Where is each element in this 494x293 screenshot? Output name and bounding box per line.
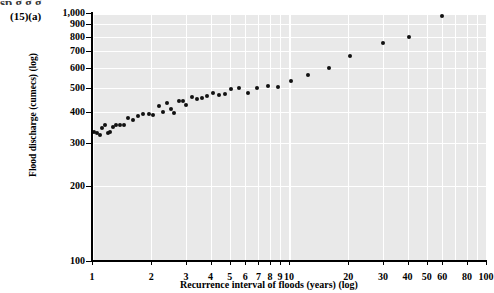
gridline-horizontal	[92, 24, 486, 25]
data-point	[407, 35, 411, 39]
data-point	[126, 116, 130, 120]
gridline-vertical	[186, 13, 187, 261]
gridline-vertical	[270, 13, 271, 261]
gridline-vertical	[477, 13, 478, 261]
y-axis-tick	[86, 37, 91, 38]
data-point	[141, 112, 145, 116]
gridline-horizontal	[92, 51, 486, 52]
data-point	[195, 97, 199, 101]
x-axis-tick	[348, 261, 349, 265]
y-axis-tick	[86, 186, 91, 187]
y-axis-tick-label: 800	[40, 32, 85, 42]
x-axis-tick-label: 100	[471, 266, 494, 284]
data-point	[229, 87, 233, 91]
y-axis-tick-label: 100	[40, 256, 85, 266]
figure-label: (15)(a)	[10, 10, 41, 22]
scatter-plot-area	[92, 13, 486, 261]
data-point	[381, 41, 385, 45]
data-point	[122, 123, 126, 127]
data-point	[440, 14, 444, 18]
gridline-vertical	[442, 13, 443, 261]
gridline-vertical	[245, 13, 246, 261]
gridline-horizontal	[92, 37, 486, 38]
data-point	[237, 86, 241, 90]
x-axis-tick	[211, 261, 212, 265]
gridline-vertical	[408, 13, 409, 261]
gridline-vertical	[289, 13, 291, 261]
y-axis-tick-label: 600	[40, 63, 85, 73]
data-point	[348, 54, 352, 58]
x-axis-tick	[230, 261, 231, 265]
x-axis-tick	[151, 261, 152, 265]
x-axis-tick	[92, 261, 93, 265]
data-point	[165, 101, 169, 105]
data-point	[181, 99, 185, 103]
x-axis-tick	[270, 261, 271, 265]
data-point	[136, 114, 140, 118]
y-axis-tick	[86, 68, 91, 69]
data-point	[255, 86, 259, 90]
data-point	[211, 91, 215, 95]
gridline-vertical	[211, 13, 212, 261]
data-point	[161, 110, 165, 114]
data-point	[131, 118, 135, 122]
x-axis-tick	[245, 261, 246, 265]
y-axis-tick-label: 300	[40, 138, 85, 148]
y-axis-tick	[86, 112, 91, 113]
data-point	[266, 84, 270, 88]
gridline-vertical	[427, 13, 428, 261]
x-axis-tick	[442, 261, 443, 265]
data-point	[184, 103, 188, 107]
x-axis-tick-label: 1	[77, 266, 107, 284]
gridline-vertical	[151, 13, 152, 261]
y-axis-tick-label: 400	[40, 107, 85, 117]
x-axis-tick	[186, 261, 187, 265]
gridline-horizontal	[92, 13, 486, 15]
gridline-vertical	[455, 13, 456, 261]
data-point	[223, 92, 227, 96]
data-point	[103, 123, 107, 127]
y-axis-line	[91, 12, 93, 262]
data-point	[177, 99, 181, 103]
data-point	[118, 123, 122, 127]
x-axis-title: Recurrence interval of floods (years) (l…	[180, 279, 358, 290]
data-point	[246, 91, 250, 95]
data-point	[276, 85, 280, 89]
x-axis-tick	[280, 261, 281, 265]
y-axis-tick	[86, 261, 91, 262]
y-axis-tick-label: 700	[40, 46, 85, 56]
data-point	[172, 111, 176, 115]
y-axis-tick-label: 900	[40, 19, 85, 29]
y-axis-tick	[86, 51, 91, 52]
y-axis-title: Flood discharge (cumecs) (log)	[28, 30, 38, 200]
gridline-vertical	[467, 13, 468, 261]
gridline-vertical	[230, 13, 231, 261]
data-point	[200, 96, 204, 100]
gridline-horizontal	[92, 143, 486, 144]
data-point	[108, 130, 112, 134]
x-axis-tick	[258, 261, 259, 265]
gridline-vertical	[280, 13, 281, 261]
x-axis-tick	[289, 261, 290, 265]
data-point	[327, 66, 331, 70]
data-point	[151, 113, 155, 117]
gridline-horizontal	[92, 88, 486, 89]
y-axis-tick-label: 200	[40, 181, 85, 191]
gridline-vertical	[348, 13, 349, 261]
gridline-horizontal	[92, 68, 486, 69]
gridline-vertical	[383, 13, 384, 261]
x-axis-tick	[486, 261, 487, 265]
data-point	[169, 107, 173, 111]
gridline-horizontal	[92, 186, 486, 187]
data-point	[306, 73, 310, 77]
data-point	[217, 93, 221, 97]
data-point	[289, 79, 293, 83]
y-axis-tick	[86, 88, 91, 89]
y-axis-tick-label: 500	[40, 83, 85, 93]
y-axis-tick	[86, 24, 91, 25]
y-axis-tick	[86, 143, 91, 144]
top-cropped-text: sp g g g	[0, 0, 494, 5]
data-point	[205, 94, 209, 98]
y-axis-tick	[86, 13, 91, 14]
data-point	[190, 95, 194, 99]
